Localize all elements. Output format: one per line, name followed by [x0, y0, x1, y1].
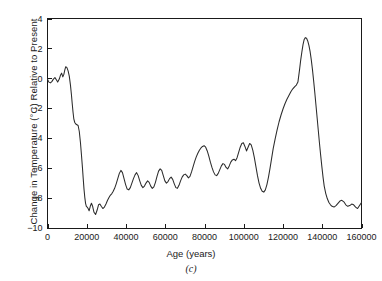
x-axis-tick-labels: 0200004000060000800001000001200001400001…	[45, 232, 377, 242]
x-tick-label-40000: 40000	[113, 232, 138, 242]
x-tick-label-160000: 160000	[346, 232, 376, 242]
y-axis-label: Change in Temperature (°C) Relative to P…	[28, 25, 39, 225]
x-tick-label-100000: 100000	[229, 232, 259, 242]
x-tick-label-80000: 80000	[192, 232, 217, 242]
y-tick-label--10: −10	[27, 223, 42, 233]
x-tick-label-0: 0	[45, 232, 50, 242]
y-axis-ticks	[48, 20, 52, 229]
x-tick-label-60000: 60000	[153, 232, 178, 242]
figure-panel-c: 0200004000060000800001000001200001400001…	[0, 0, 382, 281]
data-series-group	[48, 38, 362, 215]
x-tick-label-120000: 120000	[268, 232, 298, 242]
x-tick-label-140000: 140000	[307, 232, 337, 242]
plot-frame	[48, 19, 362, 229]
temperature-line-chart: 0200004000060000800001000001200001400001…	[0, 0, 382, 281]
temperature-curve	[48, 38, 362, 215]
panel-caption: (c)	[0, 263, 382, 274]
x-axis-ticks	[49, 224, 363, 228]
x-axis-label: Age (years)	[0, 248, 382, 259]
x-tick-label-20000: 20000	[74, 232, 99, 242]
